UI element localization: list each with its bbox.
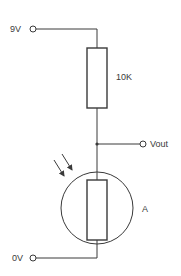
resistor-value-label: 10K xyxy=(116,72,132,82)
output-terminal: Vout xyxy=(140,139,169,149)
supply-terminal: 9V xyxy=(10,24,36,34)
supply-wire xyxy=(36,29,97,48)
ldr-label: A xyxy=(142,204,148,214)
ground-terminal: 0V xyxy=(12,253,36,263)
light-dependent-resistor: A xyxy=(54,154,148,244)
light-arrow-icon xyxy=(54,160,64,176)
output-label: Vout xyxy=(150,139,169,149)
circuit-diagram: 9V 10K Vout A 0V xyxy=(0,0,181,276)
output-terminal-icon xyxy=(140,141,146,147)
resistor-icon xyxy=(87,48,107,108)
ground-label: 0V xyxy=(12,253,23,263)
ground-terminal-icon xyxy=(30,255,36,261)
ldr-resistor-icon xyxy=(87,180,107,240)
fixed-resistor: 10K xyxy=(87,48,132,108)
light-arrow-icon xyxy=(62,154,72,170)
supply-label: 9V xyxy=(10,24,21,34)
supply-terminal-icon xyxy=(30,26,36,32)
